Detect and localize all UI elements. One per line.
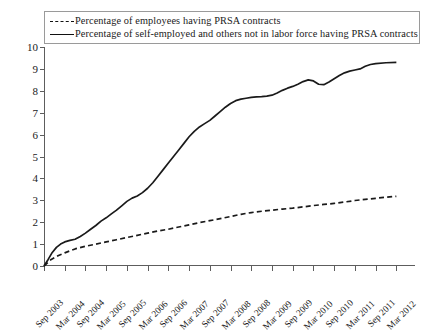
plot-area: 012345678910 Sep 2003Mar 2004Sep 2004Mar… [44, 47, 415, 266]
x-axis-tick [106, 266, 107, 271]
y-axis-tick-label: 1 [33, 239, 39, 250]
y-axis-tick-label: 4 [33, 173, 39, 184]
y-axis-tick-label: 6 [33, 129, 39, 140]
x-axis-tick [272, 266, 273, 271]
x-axis-tick [313, 266, 314, 271]
y-axis-tick-label: 0 [33, 261, 39, 272]
y-axis-tick-label: 9 [33, 63, 39, 74]
x-axis-tick [334, 266, 335, 271]
x-axis-tick [251, 266, 252, 271]
y-axis-tick-label: 7 [33, 107, 39, 118]
x-axis-tick [148, 266, 149, 271]
x-axis-tick [376, 266, 377, 271]
x-axis-tick [231, 266, 232, 271]
x-axis-tick [127, 266, 128, 271]
series-line-self-employed [44, 62, 396, 266]
legend-label-employees: Percentage of employees having PRSA cont… [75, 15, 281, 27]
x-axis-tick [44, 266, 45, 271]
x-axis-tick [355, 266, 356, 271]
y-axis-tick-label: 2 [33, 217, 39, 228]
solid-line-sample-icon [48, 28, 75, 40]
y-axis-tick-label: 8 [33, 85, 39, 96]
x-axis-tick [85, 266, 86, 271]
legend-item-self-employed: Percentage of self-employed and others n… [48, 27, 416, 40]
series-lines [44, 47, 415, 266]
legend-label-self-employed: Percentage of self-employed and others n… [75, 28, 418, 40]
series-line-employees [44, 196, 396, 266]
x-axis-tick [293, 266, 294, 271]
dashed-line-sample-icon [48, 15, 75, 27]
y-axis-tick-label: 3 [33, 195, 39, 206]
x-axis-tick [168, 266, 169, 271]
chart-legend: Percentage of employees having PRSA cont… [44, 11, 420, 44]
legend-item-employees: Percentage of employees having PRSA cont… [48, 14, 416, 27]
x-axis-tick [65, 266, 66, 271]
x-axis-tick [189, 266, 190, 271]
x-axis-tick [396, 266, 397, 271]
y-axis-tick-label: 10 [27, 42, 38, 53]
y-axis-tick-label: 5 [33, 151, 39, 162]
x-axis-tick [210, 266, 211, 271]
